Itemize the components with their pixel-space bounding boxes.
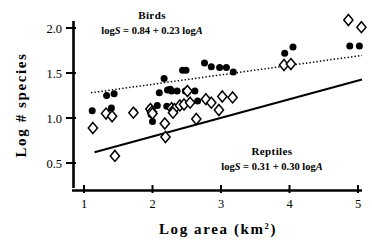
reptiles-point (228, 92, 237, 103)
birds-point (174, 88, 181, 95)
x-tick-label-3: 3 (218, 197, 224, 211)
birds-annotation-equation: logS = 0.84 + 0.23 logA (101, 25, 203, 36)
y-tick-label-2.0: 2.0 (46, 22, 62, 36)
birds-point (346, 43, 353, 50)
y-tick-label-1.0: 1.0 (46, 112, 62, 126)
x-axis-title: Log area (km2) (159, 221, 277, 238)
birds-annotation-title: Birds (138, 9, 166, 21)
birds-point (103, 92, 110, 99)
x-axis-tick-labels: 1 2 3 4 5 (81, 197, 361, 211)
reptiles-point (183, 86, 192, 97)
birds-point (201, 60, 208, 67)
species-area-scatter-plot: 2.0 1.5 1.0 0.5 1 2 3 4 5 Log # species … (0, 0, 372, 251)
birds-eq-log: log (101, 25, 115, 36)
reptiles-point (160, 118, 169, 129)
reptiles-point (214, 105, 223, 116)
x-tick-label-4: 4 (286, 197, 293, 211)
reptiles-annotation-title: Reptiles (251, 145, 292, 157)
birds-point (356, 43, 363, 50)
reptiles-point (129, 107, 138, 118)
reptiles-point (344, 15, 353, 26)
birds-eq-A: A (195, 25, 203, 36)
y-tick-label-0.5: 0.5 (46, 157, 62, 171)
reptiles-eq-mid: = 0.31 + 0.30 log (240, 161, 316, 172)
birds-point (223, 64, 230, 71)
birds-point (281, 50, 288, 57)
birds-point (183, 67, 190, 74)
birds-point (111, 90, 118, 97)
birds-regression-line (91, 55, 362, 92)
y-tick-label-1.5: 1.5 (46, 67, 62, 81)
x-axis-title-base: Log area (km (159, 221, 265, 238)
birds-point (216, 64, 223, 71)
x-tick-label-1: 1 (81, 197, 87, 211)
x-tick-label-5: 5 (355, 197, 361, 211)
reptiles-point (218, 91, 227, 102)
reptiles-annotation: Reptiles logS = 0.31 + 0.30 logA (221, 145, 323, 172)
y-axis-title: Log # species (13, 53, 29, 158)
birds-eq-mid: = 0.84 + 0.23 log (120, 25, 196, 36)
birds-point (161, 75, 168, 82)
x-axis-title-close: ) (270, 221, 277, 238)
x-tick-label-2: 2 (149, 197, 155, 211)
reptiles-point (88, 123, 97, 134)
birds-point (194, 97, 201, 104)
birds-point (89, 107, 96, 114)
birds-point (156, 89, 163, 96)
reptiles-eq-log: log (221, 161, 235, 172)
birds-point (290, 43, 297, 50)
chart-figure: 2.0 1.5 1.0 0.5 1 2 3 4 5 Log # species … (0, 0, 372, 251)
reptiles-point (286, 59, 295, 70)
birds-point (208, 63, 215, 70)
birds-annotation: Birds logS = 0.84 + 0.23 logA (101, 9, 203, 36)
reptiles-annotation-equation: logS = 0.31 + 0.30 logA (221, 161, 323, 172)
y-axis-tick-labels: 2.0 1.5 1.0 0.5 (46, 22, 62, 171)
reptiles-point (357, 22, 366, 33)
reptiles-eq-A: A (315, 161, 323, 172)
birds-point (230, 69, 237, 76)
reptiles-point (110, 150, 119, 161)
